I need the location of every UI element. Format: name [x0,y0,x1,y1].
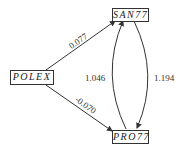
node-san77: SAN77 [112,8,149,22]
edge-pro77-san77 [112,21,126,129]
edge-polex-pro77 [46,85,112,131]
edge-label-san77-pro77: 1.194 [154,73,174,83]
edge-san77-pro77 [134,21,148,128]
edge-label-pro77-san77: 1.046 [85,73,105,83]
node-pro77: PRO77 [112,130,149,144]
edge-polex-san77 [46,21,115,70]
node-polex: POLEX [10,70,54,85]
